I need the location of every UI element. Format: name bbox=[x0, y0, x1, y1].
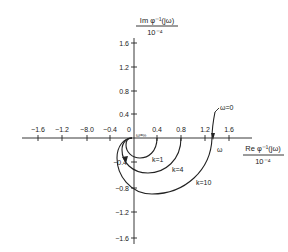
y-tick-label: 0.4 bbox=[119, 111, 129, 118]
y-tick-label: −1.6 bbox=[115, 235, 129, 242]
x-tick-label: 1.2 bbox=[200, 126, 210, 133]
omega-zero-leader bbox=[215, 108, 219, 112]
x-axis-title: Re φ⁻¹(jω) bbox=[245, 144, 281, 153]
omega-zero-label: ω=0 bbox=[220, 104, 234, 111]
x-tick-label: 1.6 bbox=[224, 126, 234, 133]
omega-direction-label: ω bbox=[217, 146, 223, 153]
x-tick-label: −1.2 bbox=[55, 126, 69, 133]
y-tick-label: 1.2 bbox=[119, 64, 129, 71]
omega-infinity-label: ω=∞ bbox=[136, 132, 147, 138]
x-tick-label: −0.4 bbox=[103, 126, 117, 133]
curve-label-k1: k=1 bbox=[152, 156, 164, 163]
curve-label-k10: k=10 bbox=[196, 179, 211, 186]
y-axis-title: Im φ⁻¹(jω) bbox=[140, 16, 175, 25]
x-tick-label: 0.4 bbox=[152, 126, 162, 133]
x-tick-label: 0.8 bbox=[176, 126, 186, 133]
y-tick-label: −0.8 bbox=[115, 185, 129, 192]
origin-label: 0 bbox=[127, 126, 131, 133]
y-tick-label: 0.8 bbox=[119, 88, 129, 95]
y-axis-title-denominator: 10⁻⁴ bbox=[147, 28, 163, 37]
curve-label-k4: k=4 bbox=[172, 166, 184, 173]
x-tick-label: −1.6 bbox=[31, 126, 45, 133]
x-tick-label: −8.0 bbox=[80, 126, 94, 133]
y-tick-label: −1.2 bbox=[115, 209, 129, 216]
x-axis-title-denominator: 10⁻⁴ bbox=[255, 157, 271, 166]
y-tick-label: 1.6 bbox=[119, 40, 129, 47]
nyquist-plot: −1.6 −1.2 −8.0 −0.4 0 0.4 0.8 1.2 1.6 1.… bbox=[0, 0, 288, 252]
curve-k1 bbox=[126, 138, 157, 158]
